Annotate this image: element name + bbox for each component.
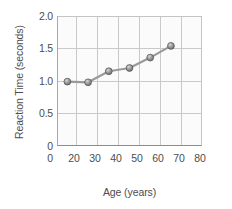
- y-tick-label-0: 0: [13, 140, 53, 152]
- gridline-horizontal-1-5: [58, 48, 201, 49]
- plot-area: [57, 16, 202, 146]
- x-tick-label-0: 0: [38, 152, 62, 164]
- gridline-vertical-70: [160, 17, 161, 145]
- gridline-vertical-50: [118, 17, 119, 145]
- gridline-horizontal-1-0: [58, 81, 201, 82]
- gridline-vertical-80: [181, 17, 182, 145]
- gridline-vertical-60: [139, 17, 140, 145]
- gridline-horizontal-0-5: [58, 113, 201, 114]
- gridline-vertical-30: [76, 17, 77, 145]
- chart-container: Reaction Time (seconds) 2.0 1.5 1.0 0.5 …: [0, 0, 232, 209]
- y-tick-label-1-0: 1.0: [13, 75, 53, 87]
- y-tick-label-0-5: 0.5: [13, 107, 53, 119]
- y-tick-label-1-5: 1.5: [13, 42, 53, 54]
- x-tick-label-80: 80: [188, 152, 212, 164]
- y-tick-label-2-0: 2.0: [13, 10, 53, 22]
- gridline-vertical-40: [97, 17, 98, 145]
- x-axis-title: Age (years): [57, 186, 202, 198]
